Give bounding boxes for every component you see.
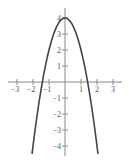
x-tick-label: −3 [11, 85, 20, 94]
y-tick-label: −2 [52, 110, 61, 119]
y-tick-label: −3 [52, 126, 61, 135]
y-tick-label: 1 [57, 62, 61, 71]
y-tick-label: −1 [52, 94, 61, 103]
y-tick-label: 2 [57, 46, 61, 55]
parabola-chart: −3−2−11234321−1−2−3−4 [0, 0, 129, 160]
y-tick-label: 3 [57, 30, 61, 39]
y-tick-label: −4 [52, 142, 61, 151]
x-tick-label: 1 [79, 85, 83, 94]
x-tick-label: 2 [95, 85, 99, 94]
x-tick-label: 3 [111, 85, 115, 94]
axes [8, 8, 122, 156]
x-tick-label: −2 [27, 85, 36, 94]
x-tick-label: −1 [43, 85, 52, 94]
